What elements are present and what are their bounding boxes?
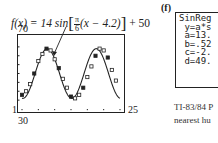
caption-line-1: TI-83/84 P <box>174 101 213 114</box>
caption: TI-83/84 P nearest hu <box>174 101 213 127</box>
panel-label: (f) <box>161 2 171 13</box>
calculator-line: d=49. <box>179 57 218 66</box>
calculator-lines: SinReg y=a*s a=13. b=.52 c=-2. d=49. <box>179 14 218 65</box>
calculator-screen: SinReg y=a*s a=13. b=.52 c=-2. d=49. <box>175 12 218 88</box>
caption-line-2: nearest hu <box>174 114 213 127</box>
